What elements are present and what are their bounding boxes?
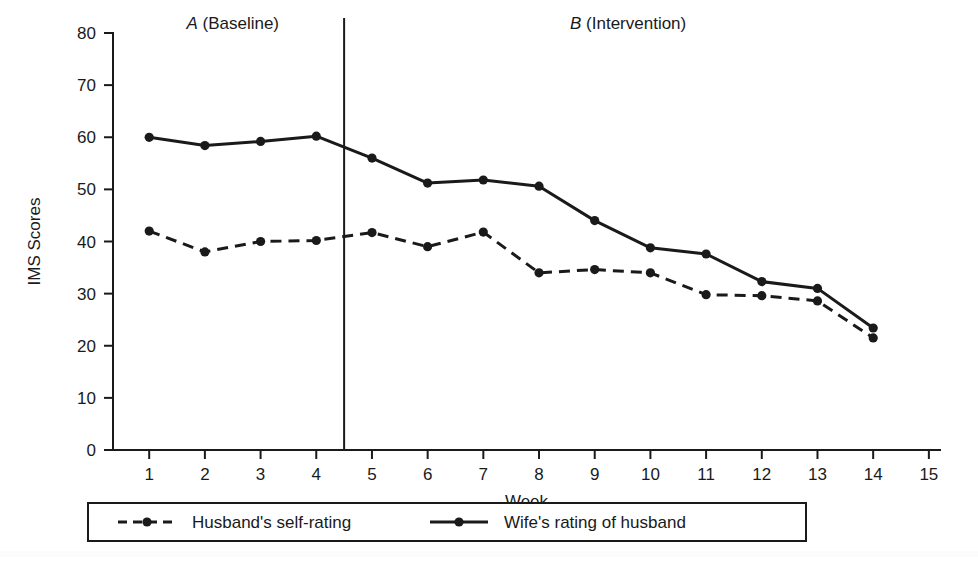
x-tick-label: 4 xyxy=(312,465,321,484)
x-tick-label: 9 xyxy=(590,465,599,484)
x-axis-ticks xyxy=(149,450,929,459)
legend-label: Husband's self-rating xyxy=(192,513,351,532)
data-point-marker xyxy=(367,228,376,237)
data-point-marker xyxy=(256,237,265,246)
x-tick-label: 8 xyxy=(534,465,543,484)
data-point-marker xyxy=(813,296,822,305)
phase-a-label: A (Baseline) xyxy=(185,14,279,33)
line-chart: 01020304050607080 123456789101112131415 … xyxy=(0,0,978,567)
series-2 xyxy=(145,132,878,333)
data-point-marker xyxy=(145,227,154,236)
x-tick-label: 3 xyxy=(256,465,265,484)
data-point-marker xyxy=(312,236,321,245)
chart-legend: Husband's self-ratingWife's rating of hu… xyxy=(88,503,806,541)
data-point-marker xyxy=(646,243,655,252)
y-tick-label: 30 xyxy=(77,285,96,304)
data-point-marker xyxy=(256,137,265,146)
data-point-marker xyxy=(200,141,209,150)
figure: 01020304050607080 123456789101112131415 … xyxy=(0,0,978,567)
x-tick-label: 7 xyxy=(479,465,488,484)
data-point-marker xyxy=(534,268,543,277)
data-point-marker xyxy=(479,228,488,237)
y-tick-label: 40 xyxy=(77,233,96,252)
phase-labels: A (Baseline)B (Intervention) xyxy=(185,14,686,33)
x-tick-label: 6 xyxy=(423,465,432,484)
data-point-marker xyxy=(702,249,711,258)
data-point-marker xyxy=(479,175,488,184)
y-tick-label: 70 xyxy=(77,76,96,95)
legend-marker xyxy=(454,517,463,526)
data-point-marker xyxy=(702,290,711,299)
y-tick-label: 20 xyxy=(77,337,96,356)
x-tick-label: 14 xyxy=(864,465,883,484)
x-tick-label: 2 xyxy=(200,465,209,484)
y-tick-label: 50 xyxy=(77,180,96,199)
phase-letter: A xyxy=(185,14,197,33)
y-tick-label: 80 xyxy=(77,24,96,43)
legend-label: Wife's rating of husband xyxy=(504,513,686,532)
y-axis-ticks xyxy=(104,33,113,450)
data-point-marker xyxy=(200,247,209,256)
x-axis-tick-labels: 123456789101112131415 xyxy=(144,465,938,484)
y-tick-label: 10 xyxy=(77,389,96,408)
data-point-marker xyxy=(423,179,432,188)
data-point-marker xyxy=(869,323,878,332)
legend-marker xyxy=(142,517,151,526)
x-tick-label: 5 xyxy=(367,465,376,484)
data-point-marker xyxy=(757,291,766,300)
x-tick-label: 1 xyxy=(144,465,153,484)
x-tick-label: 11 xyxy=(697,465,715,484)
scan-artifact xyxy=(0,551,978,557)
data-point-marker xyxy=(534,182,543,191)
x-tick-label: 12 xyxy=(752,465,771,484)
y-tick-label: 0 xyxy=(87,441,96,460)
series-layer xyxy=(145,132,878,343)
phase-text: (Baseline) xyxy=(198,14,279,33)
phase-text: (Intervention) xyxy=(581,14,686,33)
data-point-marker xyxy=(312,132,321,141)
data-point-marker xyxy=(145,133,154,142)
data-point-marker xyxy=(423,242,432,251)
series-1 xyxy=(145,227,878,343)
data-point-marker xyxy=(367,154,376,163)
x-tick-label: 13 xyxy=(808,465,827,484)
data-point-marker xyxy=(590,216,599,225)
x-tick-label: 10 xyxy=(641,465,660,484)
phase-b-label: B (Intervention) xyxy=(570,14,686,33)
phase-letter: B xyxy=(570,14,581,33)
y-axis-tick-labels: 01020304050607080 xyxy=(77,24,96,460)
y-tick-label: 60 xyxy=(77,128,96,147)
x-tick-label: 15 xyxy=(919,465,938,484)
data-point-marker xyxy=(869,333,878,342)
data-point-marker xyxy=(757,277,766,286)
data-point-marker xyxy=(646,268,655,277)
data-point-marker xyxy=(813,284,822,293)
y-axis-title: IMS Scores xyxy=(25,198,44,286)
data-point-marker xyxy=(590,265,599,274)
